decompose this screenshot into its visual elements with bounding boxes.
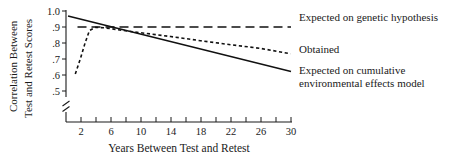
- x-axis-tick-labels: 2 6 10 14 18 22 26 30: [78, 126, 296, 137]
- y-tick-label-0.5: .5: [52, 86, 60, 97]
- y-axis: [62, 10, 70, 122]
- annotation-expected-genetic-hypothesis: Expected on genetic hypothesis: [299, 11, 438, 23]
- x-tick-label-6: 6: [108, 126, 113, 137]
- chart-figure: Correlation Between Test and Retest Scor…: [0, 0, 469, 159]
- y-tick-label-0.9: .9: [52, 22, 60, 33]
- annotation-expected-cumulative-line1: Expected on cumulative: [299, 64, 405, 76]
- y-axis-tick-labels: 1.0 .9 .8 .7 .6 .5: [47, 6, 60, 97]
- annotation-expected-cumulative-line2: environmental effects model: [299, 77, 425, 89]
- series-line-obtained: [75, 27, 290, 74]
- y-tick-label-1.0: 1.0: [47, 6, 60, 17]
- x-tick-label-10: 10: [136, 126, 147, 137]
- y-axis-label-line1: Correlation Between: [7, 20, 19, 112]
- y-axis-break-icon: [63, 101, 70, 112]
- chart-canvas: Correlation Between Test and Retest Scor…: [0, 0, 469, 159]
- x-tick-label-22: 22: [226, 126, 237, 137]
- x-tick-label-2: 2: [78, 126, 83, 137]
- x-tick-label-30: 30: [286, 126, 297, 137]
- y-axis-label-line2: Test and Retest Scores: [22, 19, 34, 118]
- y-tick-label-0.7: .7: [52, 54, 60, 65]
- x-tick-label-14: 14: [166, 126, 177, 137]
- annotation-obtained: Obtained: [299, 43, 340, 55]
- series-line-expected-cumulative-environmental: [68, 16, 291, 71]
- y-axis-label: Correlation Between Test and Retest Scor…: [7, 19, 34, 118]
- y-tick-label-0.8: .8: [52, 38, 60, 49]
- x-axis: [66, 117, 292, 122]
- x-axis-label: Years Between Test and Retest: [108, 142, 250, 154]
- y-tick-label-0.6: .6: [52, 70, 60, 81]
- x-tick-label-18: 18: [196, 126, 207, 137]
- x-tick-label-26: 26: [256, 126, 267, 137]
